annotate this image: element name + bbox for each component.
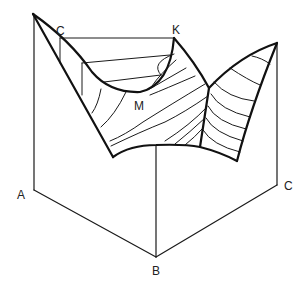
ridge-k-to-center bbox=[174, 38, 209, 88]
center-descending-edge bbox=[200, 88, 209, 147]
surface-boundaries bbox=[33, 14, 277, 161]
contour-lines-right-lobe bbox=[203, 56, 270, 152]
ridge-center-to-right-peak bbox=[209, 43, 277, 88]
ternary-surface-diagram: C K M A B C bbox=[0, 0, 308, 291]
right-inner-edge bbox=[237, 43, 277, 161]
base-edge-ab bbox=[34, 190, 156, 257]
label-m: M bbox=[134, 99, 144, 113]
label-b: B bbox=[152, 264, 160, 278]
label-k: K bbox=[172, 23, 180, 37]
left-outer-edge bbox=[33, 14, 113, 157]
base-edge-bc bbox=[156, 185, 277, 257]
label-c-top: C bbox=[56, 24, 65, 38]
label-c-base: C bbox=[284, 179, 293, 193]
prism-frame bbox=[34, 14, 277, 257]
contour-lines-left-lobe bbox=[92, 54, 208, 146]
label-a: A bbox=[17, 188, 25, 202]
front-bottom-curve bbox=[113, 145, 237, 161]
